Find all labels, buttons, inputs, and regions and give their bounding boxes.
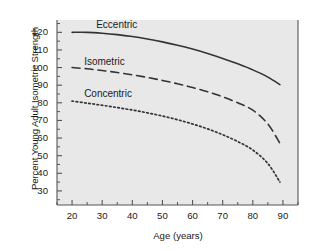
x-axis-tick-labels: 2030405060708090	[0, 0, 317, 251]
x-axis-label: Age (years)	[57, 230, 299, 241]
x-tick-label: 40	[118, 211, 146, 221]
chart-figure: Percent Young Adult Isometric Strength 3…	[0, 0, 317, 251]
x-tick-label: 30	[88, 211, 116, 221]
x-tick-label: 20	[58, 211, 86, 221]
x-tick-label: 80	[239, 211, 267, 221]
x-tick-label: 50	[148, 211, 176, 221]
x-tick-label: 70	[209, 211, 237, 221]
x-tick-label: 60	[179, 211, 207, 221]
x-tick-label: 90	[269, 211, 297, 221]
